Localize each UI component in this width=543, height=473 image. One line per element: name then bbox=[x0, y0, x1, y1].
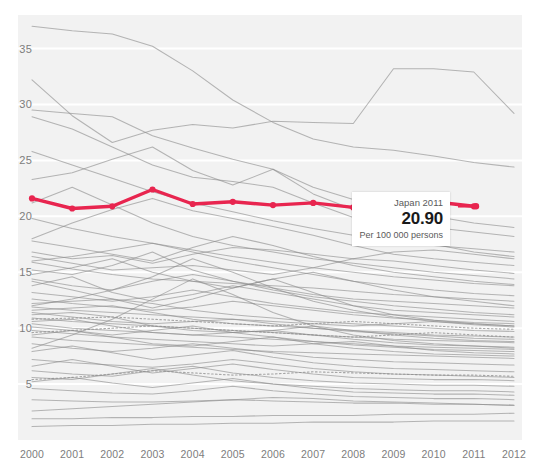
tooltip-value: 20.90 bbox=[359, 209, 443, 229]
y-axis-tick-label: 20 bbox=[19, 210, 32, 222]
tooltip-unit: Per 100 000 persons bbox=[359, 229, 443, 241]
highlight-series-marker[interactable] bbox=[230, 199, 236, 205]
x-axis-tick-label: 2009 bbox=[381, 448, 405, 460]
highlight-series-marker[interactable] bbox=[69, 205, 75, 211]
y-axis-tick-label: 5 bbox=[26, 378, 32, 390]
x-axis: 2000200120022003200420052006200720082009… bbox=[18, 448, 522, 468]
tooltip-title: Japan 2011 bbox=[359, 197, 443, 209]
tooltip-callout-dot bbox=[473, 203, 479, 209]
series-line bbox=[32, 259, 514, 306]
x-axis-tick-label: 2001 bbox=[60, 448, 84, 460]
x-axis-tick-label: 2003 bbox=[140, 448, 164, 460]
x-axis-tick-label: 2010 bbox=[422, 448, 446, 460]
y-axis-tick-label: 15 bbox=[19, 266, 32, 278]
y-axis-tick-label: 25 bbox=[19, 154, 32, 166]
x-axis-tick-label: 2008 bbox=[341, 448, 365, 460]
x-axis-tick-label: 2006 bbox=[261, 448, 285, 460]
x-axis-tick-label: 2004 bbox=[181, 448, 205, 460]
y-axis-tick-label: 35 bbox=[19, 43, 32, 55]
x-axis-tick-label: 2002 bbox=[100, 448, 124, 460]
y-axis-tick-label: 30 bbox=[19, 98, 32, 110]
x-axis-tick-label: 2012 bbox=[502, 448, 526, 460]
data-tooltip: Japan 2011 20.90 Per 100 000 persons bbox=[352, 192, 450, 246]
highlight-series-marker[interactable] bbox=[109, 203, 115, 209]
highlight-series-marker[interactable] bbox=[190, 201, 196, 207]
highlight-series-marker[interactable] bbox=[310, 200, 316, 206]
chart-root: 3530252015105 20002001200220032004200520… bbox=[0, 0, 543, 473]
y-axis-tick-label: 10 bbox=[19, 322, 32, 334]
series-line bbox=[32, 413, 514, 419]
highlight-series-marker[interactable] bbox=[270, 202, 276, 208]
series-line bbox=[32, 400, 514, 406]
series-line bbox=[32, 26, 514, 167]
x-axis-tick-label: 2005 bbox=[221, 448, 245, 460]
series-line bbox=[32, 69, 514, 143]
x-axis-tick-label: 2011 bbox=[462, 448, 485, 460]
y-axis: 3530252015105 bbox=[0, 15, 40, 440]
highlight-series-marker[interactable] bbox=[149, 186, 155, 192]
x-axis-tick-label: 2007 bbox=[301, 448, 325, 460]
series-line bbox=[32, 421, 514, 427]
series-line bbox=[32, 368, 514, 392]
x-axis-tick-label: 2000 bbox=[20, 448, 44, 460]
